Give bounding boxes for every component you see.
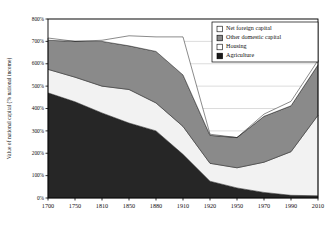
- stacked-area-chart: 0%100%200%300%400%500%600%700%800%170017…: [0, 0, 334, 228]
- chart-legend: Net foreign capitalOther domestic capita…: [212, 22, 318, 62]
- y-tick-label: 300%: [32, 128, 45, 134]
- y-tick-label: 600%: [32, 60, 45, 66]
- legend-label-housing: Housing: [226, 43, 247, 49]
- y-tick-label: 0%: [37, 195, 45, 201]
- y-axis: 0%100%200%300%400%500%600%700%800%: [32, 16, 48, 201]
- chart-figure: 0%100%200%300%400%500%600%700%800%170017…: [0, 0, 334, 228]
- x-tick-label: 2010: [312, 202, 324, 209]
- y-tick-label: 800%: [32, 16, 45, 22]
- x-tick-label: 1990: [285, 202, 297, 209]
- x-tick-label: 1920: [204, 202, 216, 209]
- y-tick-label: 500%: [32, 83, 45, 89]
- legend-swatch-other-domestic-capital: [217, 35, 223, 41]
- y-tick-label: 200%: [32, 150, 45, 156]
- x-tick-label: 1810: [96, 202, 108, 209]
- y-tick-label: 400%: [32, 105, 45, 111]
- legend-label-other-domestic-capital: Other domestic capital: [226, 34, 281, 40]
- legend-label-agriculture: Agriculture: [226, 52, 254, 58]
- legend-swatch-agriculture: [217, 53, 223, 59]
- x-tick-label: 1700: [42, 202, 54, 209]
- y-tick-label: 100%: [32, 172, 45, 178]
- x-tick-label: 1970: [258, 202, 270, 209]
- x-tick-label: 1950: [231, 202, 243, 209]
- x-tick-label: 1750: [69, 202, 81, 209]
- legend-swatch-housing: [217, 44, 223, 50]
- x-tick-label: 1850: [123, 202, 135, 209]
- y-tick-label: 700%: [32, 38, 45, 44]
- y-axis-title: Value of national capital (% national in…: [6, 58, 13, 160]
- x-tick-label: 1880: [150, 202, 162, 209]
- legend-label-net-foreign-capital: Net foreign capital: [226, 25, 272, 31]
- x-axis: 1700175018101850188019101920195019701990…: [42, 198, 324, 209]
- legend-swatch-net-foreign-capital: [217, 26, 223, 32]
- x-tick-label: 1910: [177, 202, 189, 209]
